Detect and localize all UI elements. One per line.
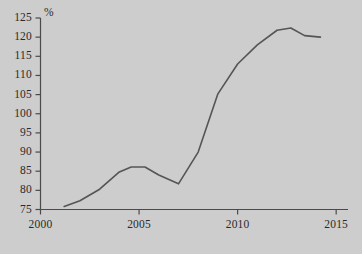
y-axis-tick-label: 110 xyxy=(6,68,32,80)
data-series-group xyxy=(64,28,320,206)
x-axis-tick-label: 2015 xyxy=(313,218,359,230)
x-axis xyxy=(41,210,349,215)
line-chart: % 7580859095100105110115120125 200020052… xyxy=(0,0,362,254)
y-axis-tick-label: 105 xyxy=(6,88,32,100)
data-line xyxy=(64,28,320,206)
y-axis-unit-label: % xyxy=(44,6,54,18)
y-axis-tick-label: 115 xyxy=(6,49,32,61)
y-axis xyxy=(36,18,41,210)
y-axis-tick-label: 120 xyxy=(6,30,32,42)
y-axis-tick-label: 100 xyxy=(6,107,32,119)
y-axis-ticks xyxy=(36,18,41,210)
y-axis-tick-label: 95 xyxy=(6,126,32,138)
x-axis-ticks xyxy=(41,210,337,215)
chart-plot-area xyxy=(0,0,362,254)
y-axis-tick-label: 75 xyxy=(6,203,32,215)
y-axis-tick-label: 80 xyxy=(6,183,32,195)
y-axis-tick-label: 90 xyxy=(6,145,32,157)
y-axis-tick-label: 85 xyxy=(6,164,32,176)
x-axis-tick-label: 2005 xyxy=(116,218,162,230)
y-axis-tick-label: 125 xyxy=(6,11,32,23)
x-axis-tick-label: 2010 xyxy=(215,218,261,230)
x-axis-tick-label: 2000 xyxy=(18,218,64,230)
